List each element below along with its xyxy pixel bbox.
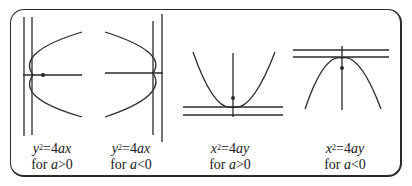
parabola-right-opening <box>23 17 82 136</box>
cond-prefix: for <box>209 157 229 172</box>
eq-coef: 4 <box>344 141 351 156</box>
equation: x2=4ay <box>300 141 390 157</box>
condition: for a<0 <box>300 157 390 173</box>
focus-point <box>232 97 235 100</box>
cond-prefix: for <box>31 157 51 172</box>
parabola-left-opening <box>105 14 163 142</box>
eq-coef: 4 <box>229 141 236 156</box>
eq-exponent: 2 <box>217 143 221 152</box>
label-left-opening: y2=4ax for a<0 <box>86 141 176 173</box>
equation: y2=4ax <box>7 141 97 157</box>
focus-point <box>42 74 45 77</box>
parabola-downward-opening <box>293 46 389 110</box>
eq-sign: = <box>336 141 344 156</box>
eq-rhs-vars: ax <box>58 141 71 156</box>
eq-exponent: 2 <box>118 143 122 152</box>
eq-sign: = <box>122 141 130 156</box>
equation: x2=4ay <box>185 141 275 157</box>
cond-var: a <box>229 157 236 172</box>
eq-sign: = <box>43 141 51 156</box>
cond-var: a <box>344 157 351 172</box>
cond-prefix: for <box>324 157 344 172</box>
parabola-curve <box>105 32 156 117</box>
equation: y2=4ax <box>86 141 176 157</box>
eq-rhs-vars: ax <box>137 141 150 156</box>
eq-rhs-vars: ay <box>351 141 364 156</box>
cond-prefix: for <box>110 157 130 172</box>
cond-var: a <box>130 157 137 172</box>
cond-rel: >0 <box>58 157 73 172</box>
label-right-opening: y2=4ax for a>0 <box>7 141 97 173</box>
eq-exponent: 2 <box>332 143 336 152</box>
eq-coef: 4 <box>51 141 58 156</box>
label-downward-opening: x2=4ay for a<0 <box>300 141 390 173</box>
eq-sign: = <box>221 141 229 156</box>
eq-coef: 4 <box>130 141 137 156</box>
condition: for a<0 <box>86 157 176 173</box>
cond-rel: <0 <box>351 157 366 172</box>
eq-rhs-vars: ay <box>236 141 249 156</box>
focus-point <box>341 67 344 70</box>
eq-exponent: 2 <box>39 143 43 152</box>
label-upward-opening: x2=4ay for a>0 <box>185 141 275 173</box>
cond-var: a <box>51 157 58 172</box>
cond-rel: >0 <box>236 157 251 172</box>
parabola-upward-opening <box>183 52 283 117</box>
cond-rel: <0 <box>137 157 152 172</box>
parabola-curve <box>305 58 381 109</box>
condition: for a>0 <box>185 157 275 173</box>
condition: for a>0 <box>7 157 97 173</box>
